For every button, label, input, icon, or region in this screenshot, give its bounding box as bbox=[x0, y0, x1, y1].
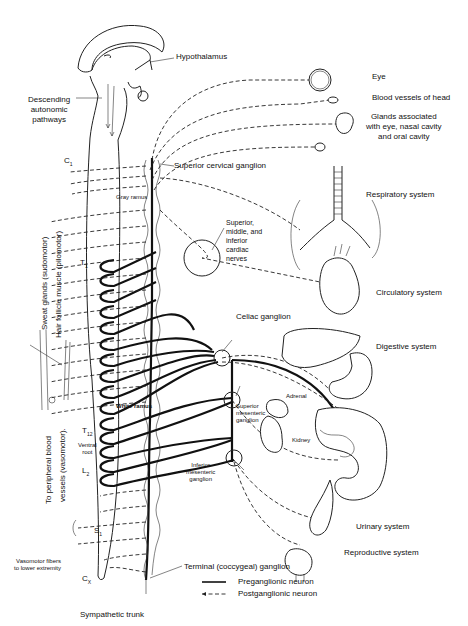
label-kidney: Kidney bbox=[292, 437, 310, 444]
label-celiac-ganglion: Celiac ganglion bbox=[236, 312, 291, 322]
adrenal bbox=[266, 400, 288, 418]
postganglionic-fibers bbox=[50, 80, 340, 572]
label-hypothalamus: Hypothalamus bbox=[176, 52, 227, 62]
legend-postganglionic: Postganglionic neuron bbox=[238, 589, 317, 599]
target-organs bbox=[261, 69, 387, 582]
head-blood-vessel bbox=[328, 97, 338, 103]
skin-section bbox=[30, 330, 70, 410]
label-sympathetic-trunk: Sympathetic trunk bbox=[80, 610, 144, 620]
label-superior-mesenteric-ganglion: Superior mesenteric ganglion bbox=[236, 403, 265, 424]
label-s1: S1 bbox=[94, 526, 102, 539]
target-blood-vessels-head: Blood vessels of head bbox=[372, 93, 450, 103]
label-cx: CX bbox=[82, 574, 91, 587]
label-vessels-vasomotor: vessels (vasomotor). bbox=[58, 428, 68, 502]
label-adrenal: Adrenal bbox=[286, 393, 307, 400]
heart bbox=[320, 258, 360, 314]
eye bbox=[309, 69, 331, 91]
label-ventral-root: Ventral root bbox=[78, 442, 97, 456]
intestines bbox=[315, 408, 386, 500]
label-hair-follicle: Hair follicle muscle (pilomotor) bbox=[54, 231, 64, 338]
label-descending-pathways: Descending autonomic pathways bbox=[28, 95, 70, 125]
label-l2: L2 bbox=[82, 466, 89, 479]
label-peripheral-blood: To peripheral blood bbox=[44, 436, 54, 504]
liver bbox=[282, 329, 360, 368]
target-respiratory-system: Respiratory system bbox=[366, 190, 434, 200]
label-white-ramus: White ramus bbox=[116, 403, 152, 410]
target-digestive-system: Digestive system bbox=[376, 342, 436, 352]
label-vasomotor-lower: Vasomotor fibers to lower extremity bbox=[14, 558, 61, 572]
colon-end bbox=[310, 480, 333, 535]
label-t12: T12 bbox=[82, 426, 92, 439]
label-t1: T1 bbox=[80, 258, 88, 271]
ganglia bbox=[184, 240, 242, 466]
gland-small bbox=[315, 143, 325, 151]
target-circulatory-system: Circulatory system bbox=[376, 288, 442, 298]
spinal-cord bbox=[87, 138, 120, 580]
legend-lines bbox=[202, 582, 226, 596]
label-sweat-glands: Sweat glands (sudomotor) bbox=[40, 237, 50, 330]
label-superior-cervical-ganglion: Superior cervical ganglion bbox=[174, 161, 266, 171]
white-rami bbox=[101, 252, 341, 486]
target-reproductive-system: Reproductive system bbox=[344, 548, 419, 558]
label-gray-ramus: Gray ramus bbox=[116, 194, 147, 201]
target-glands: Glands associated with eye, nasal cavity… bbox=[366, 112, 442, 142]
label-c1: C1 bbox=[64, 156, 73, 169]
gland bbox=[336, 113, 353, 134]
legend-preganglionic: Preganglionic neuron bbox=[238, 577, 314, 587]
label-terminal-ganglion: Terminal (coccygeal) ganglion bbox=[184, 562, 290, 572]
target-eye: Eye bbox=[372, 72, 386, 82]
label-cardiac-nerves: Superior, middle, and inferior cardiac n… bbox=[226, 218, 262, 263]
label-inferior-mesenteric-ganglion: Inferior mesenteric ganglion bbox=[186, 462, 215, 483]
brain-illustration bbox=[78, 25, 164, 140]
target-urinary-system: Urinary system bbox=[356, 522, 409, 532]
